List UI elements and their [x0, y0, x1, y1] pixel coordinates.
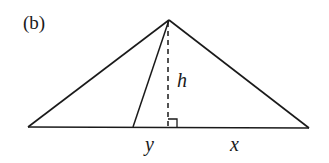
panel-label: (b)	[23, 12, 45, 34]
right-angle-marker	[168, 119, 177, 127]
segment-y-label: y	[143, 133, 154, 156]
triangle-left-side	[28, 20, 169, 127]
triangle-diagram: (b) h y x	[0, 0, 329, 163]
triangle-base	[28, 127, 309, 128]
segment-x-label: x	[229, 133, 239, 155]
height-label: h	[177, 69, 187, 91]
triangle-right-side	[169, 20, 309, 128]
inner-segment	[133, 20, 169, 127]
